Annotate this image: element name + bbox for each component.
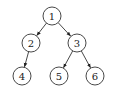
edge-3-to-6 [81,51,90,68]
edge-1-to-3 [58,23,70,36]
binary-tree-diagram: 1 2 3 4 5 6 [0,0,114,96]
node-label: 2 [28,38,34,49]
node-label: 5 [56,71,62,82]
node-label: 1 [49,11,55,22]
tree-node-2: 2 [22,34,40,52]
node-label: 4 [19,71,25,82]
edge-1-to-2 [37,23,47,35]
tree-node-3: 3 [68,34,86,52]
node-label: 6 [92,71,98,82]
tree-node-6: 6 [86,67,104,85]
nodes-group: 1 2 3 4 5 6 [13,7,104,85]
node-label: 3 [74,38,80,49]
edge-2-to-4 [24,52,28,67]
edge-3-to-5 [64,51,73,68]
tree-node-1: 1 [43,7,61,25]
tree-node-4: 4 [13,67,31,85]
tree-node-5: 5 [50,67,68,85]
